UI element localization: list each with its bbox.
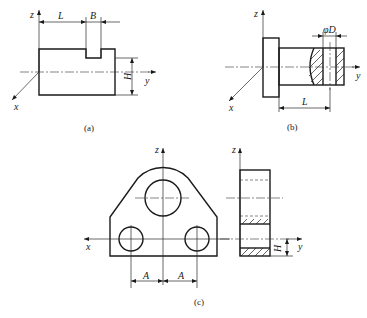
z-axis-label: z xyxy=(29,9,34,20)
section-hatching xyxy=(309,50,344,85)
x-axis-arrow xyxy=(229,67,263,101)
caption-c: (c) xyxy=(194,297,204,307)
figure-b: z φD L y x (b) xyxy=(225,8,361,132)
dimension-label-l: L xyxy=(57,10,64,21)
caption-a: (a) xyxy=(84,123,94,133)
x-axis-label: x xyxy=(228,102,234,113)
flange-outline xyxy=(263,38,279,97)
section-hatching-lower xyxy=(241,248,270,256)
dimension-label-d: φD xyxy=(323,24,337,35)
dimension-label-l: L xyxy=(301,96,308,107)
y-axis-label: y xyxy=(144,75,150,86)
y-axis-label: y xyxy=(297,241,303,252)
side-view-outline xyxy=(240,170,270,256)
plate-outline xyxy=(110,167,217,256)
dimension-label-h: H xyxy=(122,72,133,81)
figure-c-front-view: z x A A (c) xyxy=(84,144,230,307)
figure-a: z L B H y x (a) xyxy=(12,9,156,133)
x-axis-arrow xyxy=(12,72,39,100)
z-axis-label: z xyxy=(253,8,258,19)
x-axis-label: x xyxy=(13,101,19,112)
z-axis-label: z xyxy=(154,144,159,155)
dimension-label-a-left: A xyxy=(142,270,150,281)
dimension-label-h: H xyxy=(272,244,283,253)
caption-b: (b) xyxy=(287,122,298,132)
section-hatching-upper xyxy=(242,219,268,224)
figure-c-side-view: z H y xyxy=(220,144,303,256)
y-axis-label: y xyxy=(355,70,361,81)
dimension-label-b: B xyxy=(90,10,96,21)
x-axis-label: x xyxy=(85,241,91,252)
dimension-label-a-right: A xyxy=(177,270,185,281)
z-axis-label: z xyxy=(231,144,236,155)
